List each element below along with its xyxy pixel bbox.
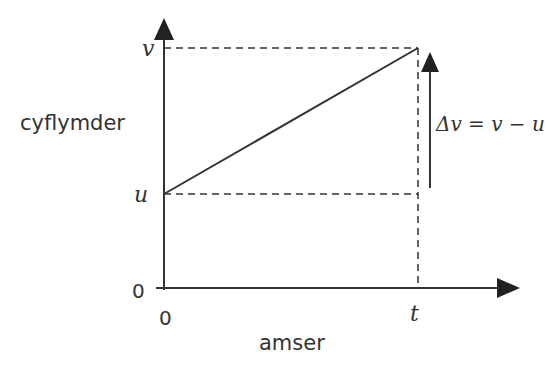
diagram-canvas: v u 0 0 t cyflymder amser Δv = v − u — [0, 0, 557, 376]
x-zero-label: 0 — [159, 306, 172, 330]
x-axis-label: amser — [259, 331, 325, 355]
y-axis-label: cyflymder — [20, 111, 125, 135]
delta-v-arrow-icon — [421, 52, 439, 72]
t-tick-label: t — [410, 301, 419, 326]
y-axis-arrow-icon — [154, 18, 174, 40]
velocity-line — [164, 48, 418, 194]
v-tick-label: v — [142, 36, 155, 61]
velocity-time-diagram: v u 0 0 t cyflymder amser Δv = v − u — [0, 0, 557, 376]
delta-v-annotation: Δv = v − u — [435, 112, 545, 136]
y-zero-label: 0 — [132, 279, 145, 303]
u-tick-label: u — [134, 182, 148, 207]
x-axis-arrow-icon — [497, 278, 520, 298]
